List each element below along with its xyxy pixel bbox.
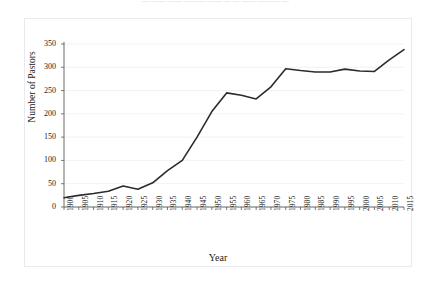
y-tick-label: 300 <box>30 63 56 71</box>
data-series-line <box>64 50 404 198</box>
x-tick-label: 1960 <box>244 196 252 211</box>
x-tick-label: 1995 <box>348 196 356 211</box>
x-tick-label: 1965 <box>259 196 267 211</box>
x-tick-label: 1935 <box>170 196 178 211</box>
x-tick-label: 1915 <box>111 196 119 211</box>
y-tick-label: 350 <box>30 40 56 48</box>
x-tick-label: 1950 <box>215 196 223 211</box>
y-tick-label: 200 <box>30 110 56 118</box>
y-tick-label: 250 <box>30 87 56 95</box>
x-tick-label: 1955 <box>230 196 238 211</box>
x-tick-label: 2005 <box>377 196 385 211</box>
x-tick-label: 2000 <box>363 196 371 211</box>
x-tick-label: 2010 <box>392 196 400 211</box>
x-tick-label: 1940 <box>185 196 193 211</box>
y-tick-label: 50 <box>30 180 56 188</box>
line-chart-svg <box>0 0 431 285</box>
x-tick-label: 1945 <box>200 196 208 211</box>
y-tick-label: 100 <box>30 156 56 164</box>
x-tick-label: 1905 <box>82 196 90 211</box>
x-tick-label: 1930 <box>156 196 164 211</box>
y-tick-label: 150 <box>30 133 56 141</box>
x-tick-label: 1900 <box>67 196 75 211</box>
x-tick-label: 1975 <box>289 196 297 211</box>
x-tick-label: 1985 <box>318 196 326 211</box>
x-tick-label: 1970 <box>274 196 282 211</box>
x-tick-label: 1925 <box>141 196 149 211</box>
x-tick-label: 1920 <box>126 196 134 211</box>
x-tick-label: 1910 <box>97 196 105 211</box>
x-axis-title: Year <box>168 252 268 263</box>
x-tick-label: 2015 <box>407 196 415 211</box>
x-tick-label: 1990 <box>333 196 341 211</box>
y-tick-label: 0 <box>30 203 56 211</box>
x-tick-label: 1980 <box>304 196 312 211</box>
chart-figure: — —— —— ——— —— — — —— ——— — Number of Pa… <box>0 0 431 285</box>
